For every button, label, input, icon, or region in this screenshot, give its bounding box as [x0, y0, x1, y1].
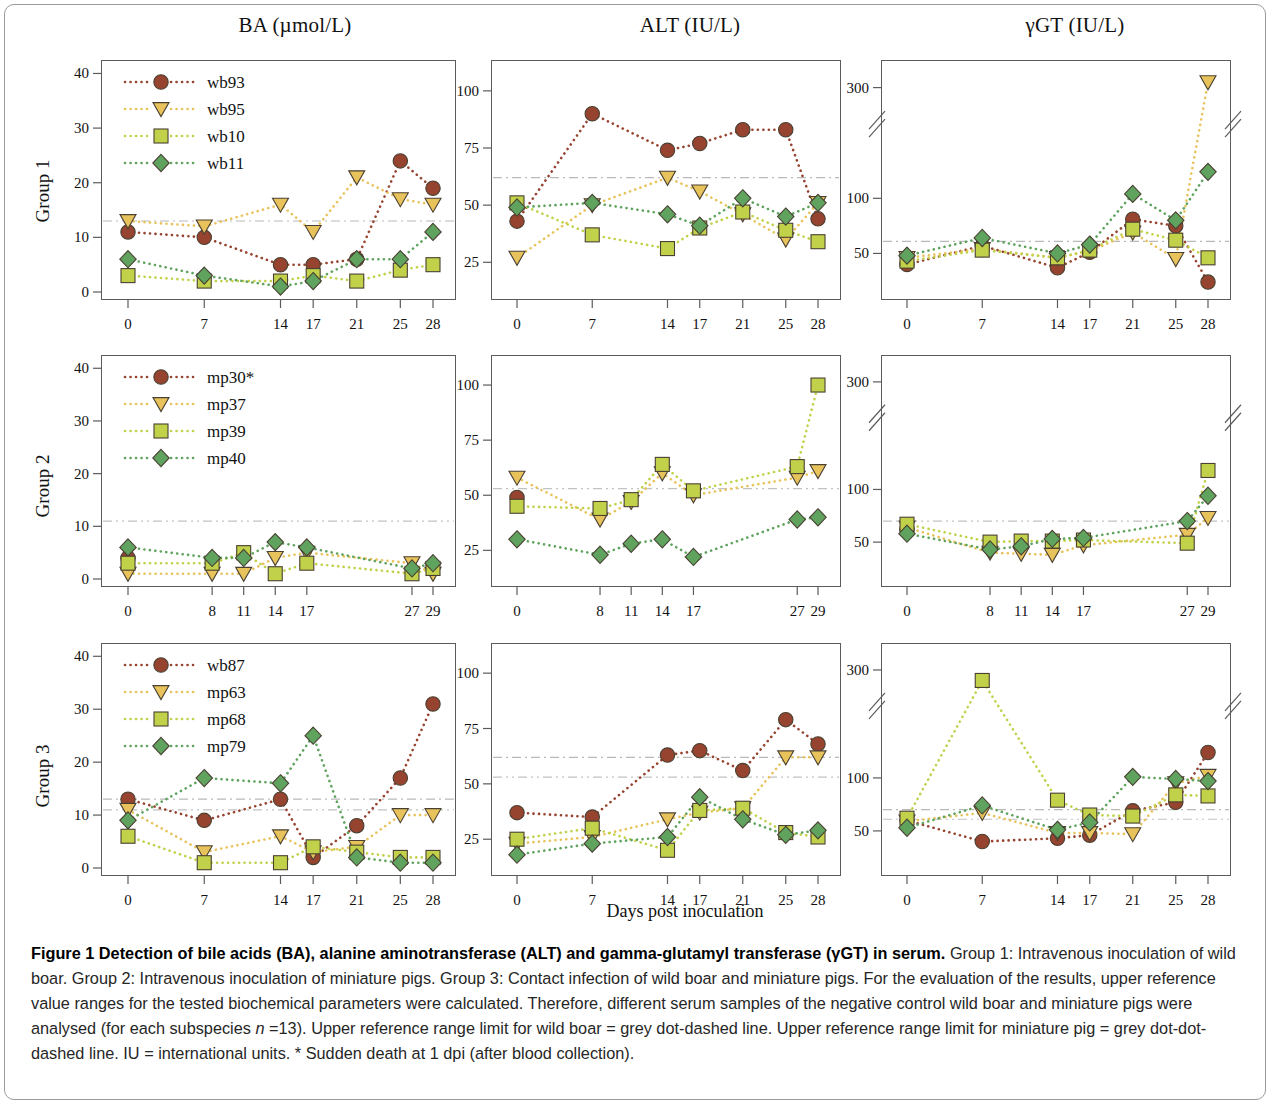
y-tick-label: 0	[82, 860, 90, 876]
data-point-wb11-0	[120, 251, 136, 268]
legend-label-wb11[interactable]: wb11	[207, 154, 244, 173]
legend-label-wb10[interactable]: wb10	[207, 127, 245, 146]
x-tick-label: 25	[393, 892, 408, 908]
plot-svg-g2-ggt: 50100300081114172729	[881, 355, 1231, 645]
legend-label-mp63[interactable]: mp63	[207, 683, 246, 702]
legend-marker-mp37	[153, 398, 169, 412]
y-tick-label: 20	[74, 754, 89, 770]
data-point-wb10-14	[661, 242, 675, 256]
legend-label-mp79[interactable]: mp79	[207, 737, 246, 756]
data-point-wb87-21	[736, 763, 750, 777]
data-point-mp40-29	[810, 509, 826, 526]
data-point-wb87-28	[1201, 745, 1215, 759]
legend-label-wb95[interactable]: wb95	[207, 100, 245, 119]
legend-marker-wb11	[153, 154, 169, 171]
caption-italic-n: n	[255, 1019, 264, 1037]
y-tick-label: 30	[74, 701, 89, 717]
data-point-mp39-8	[593, 501, 607, 515]
axis-break-mark-upper	[869, 405, 885, 423]
legend-label-mp40[interactable]: mp40	[207, 449, 246, 468]
y-tick-label: 100	[847, 481, 870, 497]
legend-label-mp37[interactable]: mp37	[207, 395, 246, 414]
data-point-mp63-25	[778, 751, 794, 765]
legend-label-wb87[interactable]: wb87	[207, 656, 245, 675]
series-line-wb11	[907, 172, 1208, 256]
data-point-wb87-7	[197, 813, 211, 827]
data-point-mp68-21	[1126, 809, 1140, 823]
data-point-mp39-0	[121, 556, 135, 570]
data-point-mp37-0	[509, 471, 525, 485]
y-tick-label: 25	[464, 831, 479, 847]
x-tick-label: 14	[660, 316, 676, 332]
data-point-wb93-25	[779, 123, 793, 137]
x-tick-label: 25	[1168, 892, 1183, 908]
x-tick-label: 7	[201, 892, 209, 908]
x-tick-label: 14	[660, 892, 676, 908]
x-tick-label: 0	[903, 892, 911, 908]
x-tick-label: 17	[692, 316, 708, 332]
x-tick-label: 28	[426, 892, 441, 908]
x-tick-label: 14	[1050, 892, 1066, 908]
series-line-wb87	[517, 720, 818, 818]
data-point-mp39-14	[268, 567, 282, 581]
x-tick-label: 28	[811, 892, 826, 908]
data-point-mp39-11	[624, 493, 638, 507]
legend-label-mp68[interactable]: mp68	[207, 710, 246, 729]
x-tick-label: 7	[979, 316, 987, 332]
y-tick-label: 25	[464, 254, 479, 270]
data-point-mp68-0	[510, 832, 524, 846]
x-tick-label: 21	[349, 892, 364, 908]
x-tick-label: 14	[273, 892, 289, 908]
legend-marker-mp79	[153, 737, 169, 754]
data-point-mp63-28	[425, 809, 441, 823]
data-point-wb93-28	[1201, 275, 1215, 289]
data-point-mp40-8	[592, 546, 608, 563]
data-point-wb11-21	[349, 251, 365, 268]
x-tick-label: 17	[306, 316, 322, 332]
data-point-mp79-21	[1125, 768, 1141, 785]
data-point-mp40-14	[267, 534, 283, 551]
y-tick-label: 50	[854, 245, 869, 261]
y-tick-label: 50	[854, 823, 869, 839]
data-point-mp68-14	[274, 856, 288, 870]
data-point-mp40-11	[623, 535, 639, 552]
series-line-mp39	[517, 385, 818, 509]
x-tick-label: 17	[299, 603, 315, 619]
data-point-wb95-25	[1168, 253, 1184, 267]
data-point-mp79-0	[509, 846, 525, 863]
y-tick-label: 50	[464, 197, 479, 213]
data-point-wb95-14	[273, 198, 289, 212]
y-tick-label: 40	[74, 648, 89, 664]
data-point-mp79-17	[305, 727, 321, 744]
data-point-wb95-17	[692, 185, 708, 199]
y-tick-label: 50	[464, 487, 479, 503]
axis-break-mark-lower	[1225, 119, 1241, 137]
data-point-mp39-29	[1201, 463, 1215, 477]
data-point-wb93-25	[393, 154, 407, 168]
data-point-wb93-7	[585, 107, 599, 121]
x-tick-label: 25	[1168, 316, 1183, 332]
x-tick-label: 17	[1082, 892, 1098, 908]
x-tick-label: 25	[778, 892, 793, 908]
y-tick-label: 100	[457, 83, 480, 99]
axis-break-mark-upper	[869, 111, 885, 129]
plot-svg-g3-alt: 255075100071417212528	[491, 643, 841, 934]
x-tick-label: 21	[735, 892, 750, 908]
data-point-wb95-28	[425, 198, 441, 212]
data-point-mp79-7	[584, 835, 600, 852]
data-point-wb93-14	[273, 257, 287, 271]
x-tick-label: 0	[124, 316, 132, 332]
y-tick-label: 50	[464, 776, 479, 792]
axis-break-mark-upper	[1225, 693, 1241, 711]
series-line-mp39	[907, 471, 1208, 544]
series-line-wb95	[907, 82, 1208, 259]
legend-label-mp30*[interactable]: mp30*	[207, 368, 254, 387]
caption-bold-lead: Figure 1 Detection of bile acids (BA), a…	[31, 944, 945, 962]
data-point-mp37-29	[810, 465, 826, 479]
legend-label-wb93[interactable]: wb93	[207, 73, 245, 92]
data-point-mp79-28	[1200, 773, 1216, 790]
legend-marker-mp30*	[154, 370, 168, 384]
x-tick-label: 28	[1201, 316, 1216, 332]
legend-label-mp39[interactable]: mp39	[207, 422, 246, 441]
data-point-wb10-28	[1201, 251, 1215, 265]
